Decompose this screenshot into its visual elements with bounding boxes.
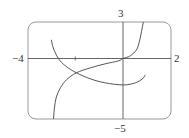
decreasing-curve	[51, 40, 145, 85]
viewing-window-frame	[28, 22, 171, 119]
increasing-curve	[54, 22, 144, 119]
y-min-label: −5	[114, 123, 126, 134]
x-min-label: −4	[12, 53, 24, 64]
curves-group	[51, 22, 145, 119]
y-max-label: 3	[118, 8, 124, 19]
plot-area	[0, 0, 189, 138]
x-max-label: 2	[174, 53, 180, 64]
